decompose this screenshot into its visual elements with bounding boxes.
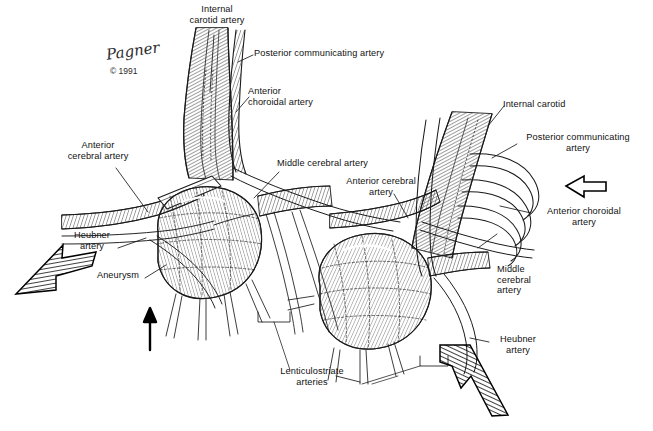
label-anterior-cerebral-artery: Anterior cerebral artery bbox=[57, 140, 139, 161]
label-anterior-cerebral-artery-right: Anterior cerebral artery bbox=[333, 176, 429, 197]
hatched-arrow-left-marker bbox=[16, 245, 96, 294]
label-heubner-artery: Heubner artery bbox=[64, 230, 120, 251]
label-internal-carotid-artery: Internal carotid artery bbox=[172, 4, 262, 25]
hatched-arrow-right-marker bbox=[440, 345, 508, 416]
label-anterior-choroidal-artery: Anterior choroidal artery bbox=[248, 86, 340, 107]
label-middle-cerebral-artery-right: Middle cerebral artery bbox=[497, 264, 551, 296]
solid-up-arrow-marker bbox=[144, 308, 156, 350]
label-anterior-choroidal-artery-right: Anterior choroidal artery bbox=[532, 206, 636, 227]
label-heubner-artery-right: Heubner artery bbox=[490, 334, 546, 355]
label-posterior-communicating-artery: Posterior communicating artery bbox=[254, 48, 424, 59]
hollow-left-arrow-marker bbox=[566, 176, 606, 197]
label-aneurysm: Aneurysm bbox=[88, 270, 148, 281]
label-middle-cerebral-artery: Middle cerebral artery bbox=[277, 158, 381, 169]
illustration-canvas: Internal carotid artery Posterior commun… bbox=[0, 0, 653, 431]
label-lenticulostriate-arteries: Lenticulostriate arteries bbox=[266, 366, 358, 387]
label-posterior-communicating-artery-right: Posterior communicating artery bbox=[516, 132, 640, 153]
copyright-notice: © 1991 bbox=[110, 66, 138, 76]
label-internal-carotid-right: Internal carotid bbox=[503, 99, 589, 110]
